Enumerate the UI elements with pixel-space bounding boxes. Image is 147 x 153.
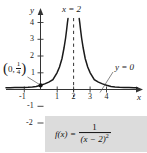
x-tick-label-3: 3 <box>88 93 92 101</box>
formula-expression: f(x) = 1 (x − 2)2 <box>55 123 111 145</box>
y-tick-label-neg1: -1 <box>27 102 34 110</box>
formula-denominator-base: (x − 2) <box>81 135 106 145</box>
y-tick-label-neg2: -2 <box>26 119 33 127</box>
x-tick-label-2: 2 <box>72 93 76 101</box>
point-label-close-paren: ) <box>21 62 26 75</box>
y-tick-label-3: 3 <box>30 35 34 43</box>
point-label-leader-line <box>28 77 40 84</box>
formula-fraction: 1 (x − 2)2 <box>79 123 111 145</box>
x-axis-label: x <box>137 93 141 102</box>
curve-right-branch <box>79 19 137 88</box>
formula-denominator: (x − 2)2 <box>79 134 111 145</box>
point-coordinate-label: ( 0 , 1 4 ) <box>3 61 26 76</box>
formula-denominator-exponent: 2 <box>106 134 109 140</box>
formula-equals-sign: = <box>71 129 76 139</box>
function-graph-figure: y x 4 3 2 1 -1 -2 -1 1 2 3 4 x = 2 y = 0… <box>0 0 147 153</box>
formula-function-name: f(x) <box>55 129 68 139</box>
y-axis-label: y <box>30 6 34 15</box>
x-tick-label-4: 4 <box>105 93 109 101</box>
x-tick-label-neg1: -1 <box>19 93 26 101</box>
point-label-comma: , <box>13 64 15 74</box>
vertical-asymptote-label: x = 2 <box>62 5 81 14</box>
y-tick-label-4: 4 <box>30 19 34 27</box>
curve-left-branch <box>6 19 68 88</box>
y-tick-label-1: 1 <box>31 69 35 77</box>
y-tick-label-2: 2 <box>30 52 34 60</box>
formula-numerator: 1 <box>89 123 100 132</box>
x-tick-label-1: 1 <box>55 93 59 101</box>
horizontal-asymptote-label: y = 0 <box>115 63 134 72</box>
y-axis <box>38 8 44 90</box>
formula-caption-box: f(x) = 1 (x − 2)2 <box>45 116 147 152</box>
